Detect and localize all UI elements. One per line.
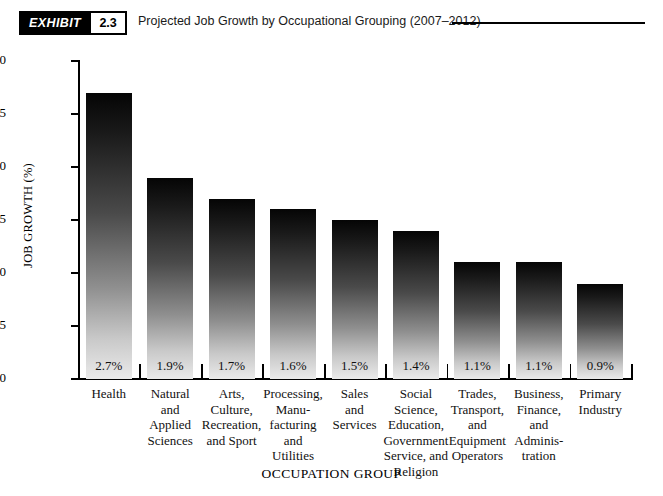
x-axis-category-label-line: Applied bbox=[136, 417, 203, 433]
x-axis-category-label-line: Equipment bbox=[444, 433, 511, 449]
x-axis-category-label-line: Culture, bbox=[198, 402, 265, 418]
x-axis-category-label-line: Service, and bbox=[382, 448, 449, 464]
x-axis-category-label-line: Recreation, bbox=[198, 417, 265, 433]
x-axis-category-label-line: Government bbox=[382, 433, 449, 449]
x-axis-category-label-line: Sales bbox=[321, 386, 388, 402]
x-axis-category-label: Trades,Transport,andEquipmentOperators bbox=[444, 386, 511, 464]
exhibit-number: 2.3 bbox=[99, 17, 116, 30]
bar-value-label: 1.1% bbox=[516, 358, 562, 374]
x-axis-category-label-line: Social bbox=[382, 386, 449, 402]
bar-value-label: 1.9% bbox=[147, 358, 193, 374]
x-axis-category-label-line: Operators bbox=[444, 448, 511, 464]
x-axis-category-label-line: Processing, bbox=[259, 386, 326, 402]
bar-value-label: 1.4% bbox=[393, 358, 439, 374]
x-axis-title: OCCUPATION GROUP bbox=[0, 466, 663, 482]
bar-value-label: 1.1% bbox=[454, 358, 500, 374]
x-axis-category-label-line: Utilities bbox=[259, 448, 326, 464]
x-axis-category-label-line: and Sport bbox=[198, 433, 265, 449]
bar: 1.4% bbox=[393, 231, 439, 379]
x-axis-category-label: SalesandServices bbox=[321, 386, 388, 433]
x-axis-category-label-line: tration bbox=[505, 448, 572, 464]
x-axis-category-label-line: and bbox=[321, 402, 388, 418]
x-axis-category-label-line: Trades, bbox=[444, 386, 511, 402]
x-axis-category-label-line: Natural bbox=[136, 386, 203, 402]
exhibit-header: EXHIBIT 2.3 bbox=[19, 11, 127, 35]
x-axis-category-label: Business,Finance,andAdminis-tration bbox=[505, 386, 572, 464]
x-axis-category-label: Health bbox=[75, 386, 142, 402]
x-axis-category-label-line: Sciences bbox=[136, 433, 203, 449]
bar-value-label: 0.9% bbox=[577, 358, 623, 374]
exhibit-number-box: 2.3 bbox=[90, 11, 127, 35]
bar: 1.7% bbox=[209, 199, 255, 379]
bar-chart: JOB GROWTH (%) 0.00.51.01.52.02.53.0 2.7… bbox=[0, 48, 663, 496]
bar: 1.6% bbox=[270, 209, 316, 379]
exhibit-badge: EXHIBIT bbox=[19, 11, 90, 35]
x-axis-category-label-line: and bbox=[259, 433, 326, 449]
exhibit-title: Projected Job Growth by Occupational Gro… bbox=[138, 15, 481, 28]
x-axis-category-label: NaturalandAppliedSciences bbox=[136, 386, 203, 448]
x-axis-category-label-line: and bbox=[505, 417, 572, 433]
exhibit-number-inner: 2.3 bbox=[91, 13, 125, 33]
x-axis-category-label-line: Services bbox=[321, 417, 388, 433]
x-axis-category-label-line: facturing bbox=[259, 417, 326, 433]
x-axis-category-label-line: Science, bbox=[382, 402, 449, 418]
bar-value-label: 2.7% bbox=[86, 358, 132, 374]
bar-value-label: 1.7% bbox=[209, 358, 255, 374]
bar: 1.1% bbox=[454, 262, 500, 379]
x-axis-category-label-line: Primary bbox=[567, 386, 634, 402]
x-axis-category-label: PrimaryIndustry bbox=[567, 386, 634, 417]
x-axis-category-label-line: and bbox=[444, 417, 511, 433]
bars-layer: 2.7%1.9%1.7%1.6%1.5%1.4%1.1%1.1%0.9% bbox=[0, 61, 663, 379]
bar-value-label: 1.6% bbox=[270, 358, 316, 374]
x-axis-category-label-line: Arts, bbox=[198, 386, 265, 402]
bar: 1.9% bbox=[147, 178, 193, 379]
x-axis-category-label-line: Health bbox=[75, 386, 142, 402]
bar: 1.1% bbox=[516, 262, 562, 379]
x-axis-category-label-line: and bbox=[136, 402, 203, 418]
x-axis-category-label-line: Education, bbox=[382, 417, 449, 433]
x-axis-category-label-line: Adminis- bbox=[505, 433, 572, 449]
bar: 1.5% bbox=[332, 220, 378, 379]
bar: 2.7% bbox=[86, 93, 132, 379]
bar: 0.9% bbox=[577, 284, 623, 379]
x-axis-category-label-line: Business, bbox=[505, 386, 572, 402]
exhibit-header-rule bbox=[452, 22, 645, 24]
x-axis-category-label-line: Transport, bbox=[444, 402, 511, 418]
x-axis-category-label: Processing,Manu-facturingandUtilities bbox=[259, 386, 326, 464]
bar-value-label: 1.5% bbox=[332, 358, 378, 374]
x-axis-category-label-line: Finance, bbox=[505, 402, 572, 418]
x-axis-category-label: Arts,Culture,Recreation,and Sport bbox=[198, 386, 265, 448]
x-axis-category-label-line: Industry bbox=[567, 402, 634, 418]
x-axis-category-label-line: Manu- bbox=[259, 402, 326, 418]
exhibit-badge-label: EXHIBIT bbox=[29, 17, 81, 30]
